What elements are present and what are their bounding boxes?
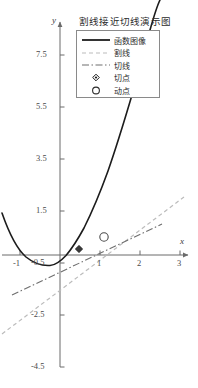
y-tick-label-3: 1.5: [36, 205, 47, 215]
y-axis-label: y: [52, 15, 56, 25]
y-tick-label-2: 3.5: [36, 153, 47, 163]
y-tick-label-1: 5.5: [36, 101, 47, 111]
chart-legend: 函数图像 割线 切线 切点 动点: [76, 30, 160, 98]
legend-label-tangency-point: 切点: [112, 72, 130, 83]
legend-item-tangent: 切线: [80, 59, 156, 72]
diamond-marker-icon: [80, 73, 112, 82]
moving-point-marker: [100, 233, 108, 241]
legend-label-moving-point: 动点: [112, 85, 130, 96]
x-tick-label-3: 3: [177, 258, 181, 268]
y-tick-label-4: -0.5: [31, 257, 44, 267]
legend-item-function: 函数图像: [80, 34, 156, 47]
x-tick-label-0: -1: [13, 258, 20, 268]
y-axis: [60, 22, 65, 367]
y-tick-label-6: -4.5: [31, 361, 44, 371]
legend-label-function: 函数图像: [112, 35, 146, 46]
legend-item-tangency-point: 切点: [80, 72, 156, 85]
dashed-line-icon: [80, 49, 112, 57]
x-axis: [2, 251, 188, 256]
chart-figure: 割线接近切线演示图 y x -1 1 2 3 7.5 5.5 3.5 1.5 -…: [0, 0, 198, 388]
y-tick-label-0: 7.5: [36, 49, 47, 59]
secant-line: [2, 197, 184, 334]
y-tick-label-5: -2.5: [31, 309, 44, 319]
solid-line-icon: [80, 36, 112, 44]
legend-label-secant: 割线: [112, 47, 130, 58]
chart-title: 割线接近切线演示图: [60, 14, 190, 28]
tangency-point-marker: [75, 246, 82, 253]
legend-label-tangent: 切线: [112, 60, 130, 71]
x-axis-label: x: [180, 236, 184, 246]
legend-item-moving-point: 动点: [80, 84, 156, 97]
dashdot-line-icon: [80, 61, 112, 69]
x-tick-label-1: 1: [97, 258, 101, 268]
circle-marker-icon: [80, 86, 112, 95]
x-tick-label-2: 2: [137, 258, 141, 268]
legend-item-secant: 割线: [80, 47, 156, 60]
